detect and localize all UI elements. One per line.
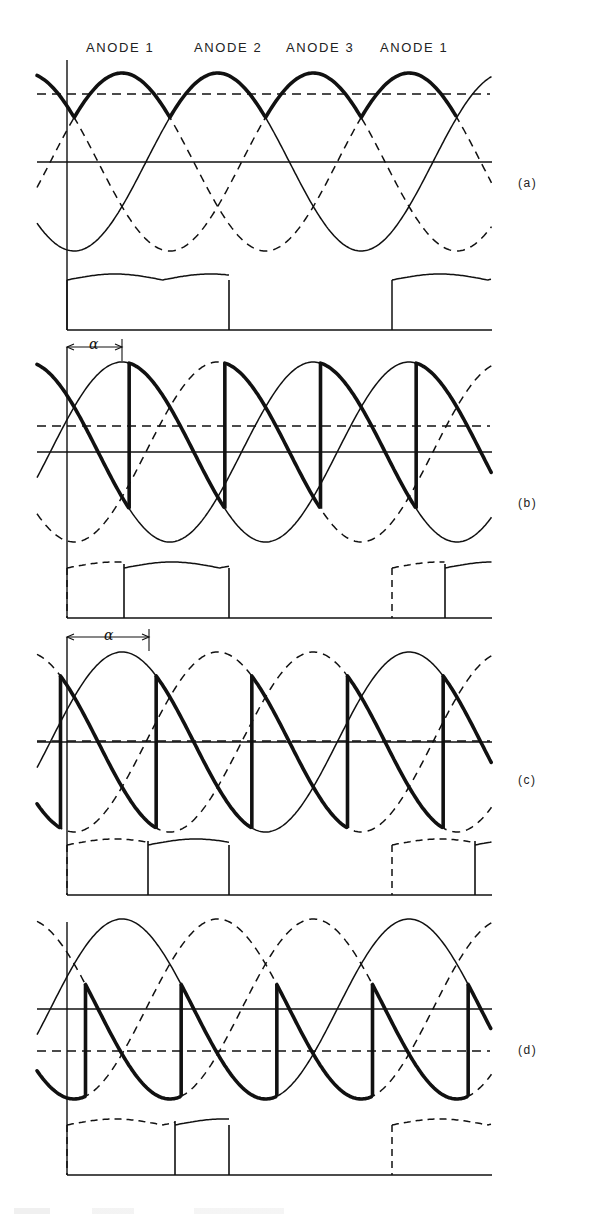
output-voltage-envelope — [443, 676, 491, 762]
waveform-drawing — [0, 0, 608, 1222]
panel-d — [37, 919, 492, 1175]
anode-current-trace — [148, 839, 229, 845]
anode-current-trace — [67, 274, 229, 280]
output-voltage-envelope — [37, 1071, 85, 1099]
panel-a — [37, 60, 492, 330]
anode-current-trace — [475, 842, 492, 845]
output-voltage-envelope — [181, 985, 276, 1100]
anode-current-trace — [67, 1119, 175, 1125]
output-voltage-envelope — [277, 985, 372, 1100]
anode-current-trace — [67, 839, 148, 845]
output-voltage-envelope — [373, 985, 468, 1100]
anode-current-trace — [67, 562, 124, 568]
output-voltage-envelope — [37, 804, 60, 828]
output-voltage-envelope — [266, 73, 361, 118]
output-voltage-envelope — [156, 676, 251, 827]
anode-current-trace — [124, 562, 229, 568]
output-voltage-envelope — [361, 73, 456, 118]
panel-b — [37, 339, 492, 618]
anode-current-trace — [175, 1119, 229, 1125]
anode-current-trace — [392, 1119, 491, 1125]
rectifier-waveform-figure: ANODE 1 ANODE 2 ANODE 3 ANODE 1 (a) (b) … — [0, 0, 608, 1222]
output-voltage-envelope — [321, 363, 416, 507]
output-voltage-envelope — [86, 985, 181, 1100]
anode-current-trace — [392, 839, 475, 845]
output-voltage-envelope — [74, 73, 169, 118]
output-voltage-envelope — [416, 363, 491, 472]
anode-current-trace — [392, 274, 491, 280]
output-voltage-envelope — [129, 363, 224, 507]
output-voltage-envelope — [468, 985, 491, 1029]
panel-c — [37, 629, 492, 895]
output-voltage-envelope — [225, 363, 319, 507]
output-voltage-envelope — [170, 73, 264, 118]
anode-current-trace — [445, 562, 492, 568]
anode-current-trace — [392, 562, 445, 568]
caption-truncated — [14, 1208, 314, 1214]
output-voltage-envelope — [37, 364, 129, 507]
